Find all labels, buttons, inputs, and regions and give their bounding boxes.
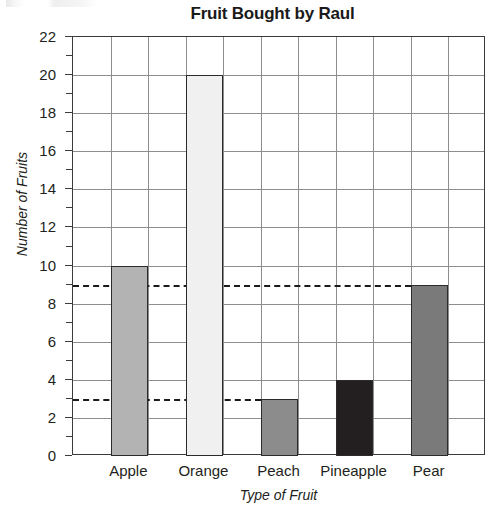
y-tick-minor: [66, 55, 72, 56]
y-tick-major: [65, 226, 72, 227]
x-axis-label-pineapple: Pineapple: [320, 462, 387, 479]
bar-pineapple: [336, 380, 374, 456]
y-tick-major: [65, 455, 72, 456]
reference-line-3: [73, 399, 261, 401]
y-tick-minor: [66, 398, 72, 399]
vertical-gridline: [373, 37, 374, 454]
x-axis-title: Type of Fruit: [72, 487, 485, 503]
y-axis-label-0: 0: [12, 447, 56, 464]
y-tick-major: [65, 265, 72, 266]
y-axis-label-18: 18: [12, 104, 56, 121]
y-tick-minor: [66, 322, 72, 323]
y-axis-label-8: 8: [12, 294, 56, 311]
y-tick-major: [65, 74, 72, 75]
y-tick-major: [65, 150, 72, 151]
x-axis-label-pear: Pear: [413, 462, 445, 479]
vertical-gridline: [148, 37, 149, 454]
chart-title: Fruit Bought by Raul: [60, 4, 485, 24]
y-tick-minor: [66, 131, 72, 132]
y-tick-major: [65, 417, 72, 418]
y-tick-minor: [66, 284, 72, 285]
vertical-gridline: [223, 37, 224, 454]
y-tick-minor: [66, 169, 72, 170]
y-tick-minor: [66, 360, 72, 361]
bar-chart: Fruit Bought by Raul 0246810121416182022…: [0, 0, 501, 517]
y-tick-major: [65, 188, 72, 189]
vertical-gridline: [298, 37, 299, 454]
vertical-gridline: [448, 37, 449, 454]
y-axis-label-2: 2: [12, 408, 56, 425]
y-axis-title: Number of Fruits: [14, 124, 30, 284]
horizontal-gridline: [73, 227, 484, 228]
plot-area: [72, 36, 485, 455]
bar-pear: [411, 285, 449, 456]
bar-peach: [261, 399, 299, 456]
y-axis-label-20: 20: [12, 66, 56, 83]
y-axis-label-22: 22: [12, 28, 56, 45]
y-tick-major: [65, 341, 72, 342]
x-axis-label-peach: Peach: [257, 462, 300, 479]
plot-inner: [73, 37, 484, 454]
y-tick-minor: [66, 93, 72, 94]
y-axis-label-4: 4: [12, 370, 56, 387]
horizontal-gridline: [73, 151, 484, 152]
y-tick-minor: [66, 207, 72, 208]
y-tick-major: [65, 303, 72, 304]
y-tick-major: [65, 36, 72, 37]
y-tick-minor: [66, 246, 72, 247]
y-tick-major: [65, 379, 72, 380]
bar-orange: [186, 75, 224, 456]
x-axis-label-apple: Apple: [109, 462, 147, 479]
y-axis-ticks: [58, 36, 72, 455]
vertical-gridline: [261, 37, 262, 454]
y-tick-minor: [66, 436, 72, 437]
y-tick-major: [65, 112, 72, 113]
horizontal-gridline: [73, 189, 484, 190]
y-axis-label-6: 6: [12, 332, 56, 349]
horizontal-gridline: [73, 113, 484, 114]
bar-apple: [111, 266, 149, 456]
x-axis-label-orange: Orange: [178, 462, 228, 479]
horizontal-gridline: [73, 75, 484, 76]
